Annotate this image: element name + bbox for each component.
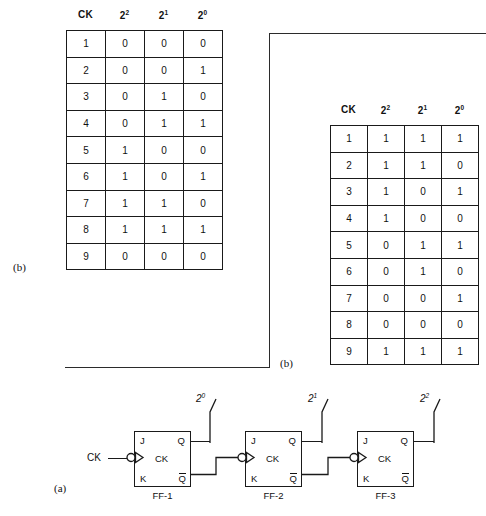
cell-bit: 0: [442, 205, 479, 232]
ff1-pin-ck: CK: [155, 453, 168, 464]
table-row: 9111: [331, 338, 479, 365]
cell-bit: 1: [368, 152, 405, 179]
cell-bit: 0: [405, 205, 442, 232]
exponent-2: 2: [386, 104, 390, 111]
cell-ck: 6: [331, 258, 368, 285]
cell-ck: 4: [67, 110, 106, 137]
cell-bit: 0: [106, 110, 145, 137]
divider-vertical: [269, 33, 270, 368]
ff2-pin-ck: CK: [266, 453, 279, 464]
cell-bit: 0: [368, 285, 405, 312]
cell-bit: 0: [405, 179, 442, 206]
ff2-clock-bubble-icon: [237, 450, 257, 466]
cell-bit: 1: [184, 57, 223, 84]
cell-bit: 0: [184, 137, 223, 164]
cell-bit: 1: [442, 179, 479, 206]
figure-label-b-left: (b): [13, 261, 26, 273]
cell-bit: 0: [145, 137, 184, 164]
cell-ck: 5: [331, 232, 368, 259]
cell-bit: 0: [106, 57, 145, 84]
cell-bit: 0: [184, 84, 223, 111]
cell-bit: 1: [405, 232, 442, 259]
cell-ck: 7: [67, 190, 106, 217]
cell-bit: 0: [442, 152, 479, 179]
column-header-bit0: 20: [441, 104, 478, 116]
ff1-clock-bubble-icon: [126, 450, 146, 466]
table-row: 9000: [67, 243, 223, 270]
table-b-right-header: CK 22 21 20: [330, 104, 478, 116]
cell-bit: 0: [106, 31, 145, 58]
cell-bit: 1: [405, 152, 442, 179]
ff1-output-label-2pow0: 20: [196, 392, 205, 404]
cell-bit: 0: [368, 232, 405, 259]
exponent-1: 1: [164, 9, 168, 16]
column-header-ck: CK: [330, 104, 367, 116]
table-row: 5011: [331, 232, 479, 259]
cell-ck: 1: [331, 126, 368, 153]
cell-ck: 3: [67, 84, 106, 111]
truth-table-b-right: 111121103101410050116010700180009111: [330, 125, 479, 365]
exponent-0: 0: [202, 392, 206, 399]
ff3-name: FF-3: [357, 490, 414, 501]
table-row: 8000: [331, 312, 479, 339]
column-header-bit1: 21: [144, 9, 183, 21]
table-row: 1111: [331, 126, 479, 153]
cell-ck: 4: [331, 205, 368, 232]
table-row: 1000: [67, 31, 223, 58]
column-header-bit0: 20: [183, 9, 222, 21]
cell-bit: 1: [184, 110, 223, 137]
cell-bit: 1: [145, 217, 184, 244]
figure-page: CK 22 21 20 1000200130104011510061017110…: [0, 0, 486, 516]
cell-ck: 9: [67, 243, 106, 270]
table-row: 6101: [67, 163, 223, 190]
cell-bit: 1: [106, 137, 145, 164]
cell-bit: 1: [368, 126, 405, 153]
cell-ck: 2: [67, 57, 106, 84]
cell-bit: 0: [106, 84, 145, 111]
divider-top-horizontal: [270, 33, 486, 34]
table-row: 7001: [331, 285, 479, 312]
table-row: 2001: [67, 57, 223, 84]
cell-bit: 0: [442, 312, 479, 339]
ff2-q-output-wire-diagonal: [314, 398, 334, 443]
cell-bit: 1: [405, 258, 442, 285]
table-row: 4011: [67, 110, 223, 137]
cell-ck: 1: [67, 31, 106, 58]
column-header-ck: CK: [66, 9, 105, 21]
table-row: 4100: [331, 205, 479, 232]
cell-bit: 0: [184, 190, 223, 217]
cell-bit: 1: [145, 84, 184, 111]
table-row: 8111: [67, 217, 223, 244]
cell-bit: 0: [368, 312, 405, 339]
cell-bit: 1: [442, 232, 479, 259]
cell-bit: 0: [184, 243, 223, 270]
cell-ck: 5: [67, 137, 106, 164]
ff3-q-output-wire-diagonal: [426, 398, 446, 443]
truth-table-b-left: 100020013010401151006101711081119000: [66, 30, 223, 270]
column-header-bit2: 22: [367, 104, 404, 116]
ff1-pin-k: K: [140, 473, 146, 484]
table-row: 6010: [331, 258, 479, 285]
exponent-0: 0: [460, 104, 464, 111]
table-row: 2110: [331, 152, 479, 179]
figure-label-b-right: (b): [280, 357, 293, 369]
ff1-q-output-wire-diagonal: [202, 398, 222, 443]
cell-bit: 1: [368, 205, 405, 232]
cell-bit: 0: [368, 258, 405, 285]
cell-bit: 1: [442, 126, 479, 153]
ff2-pin-j: J: [251, 435, 256, 446]
ff3-output-label-2pow2: 22: [420, 392, 429, 404]
ff1-pin-qbar: Q: [179, 473, 186, 484]
cell-bit: 0: [442, 258, 479, 285]
clock-input-label: CK: [87, 452, 101, 463]
cell-bit: 1: [405, 338, 442, 365]
ff2-pin-q: Q: [289, 435, 296, 446]
ff3-pin-ck: CK: [378, 453, 391, 464]
cell-bit: 0: [184, 31, 223, 58]
cell-bit: 0: [106, 243, 145, 270]
cell-ck: 3: [331, 179, 368, 206]
cell-bit: 1: [184, 163, 223, 190]
cell-ck: 7: [331, 285, 368, 312]
cell-bit: 1: [442, 338, 479, 365]
cell-ck: 2: [331, 152, 368, 179]
